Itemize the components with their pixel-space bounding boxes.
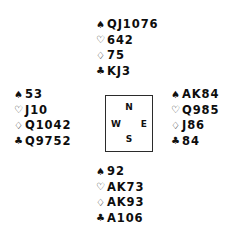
hand-east-diamonds-row: ♢ J86 [171,118,219,134]
hand-south-clubs: A106 [107,213,144,225]
heart-icon: ♡ [171,105,182,115]
hand-west-spades: 53 [25,89,43,101]
hand-south-hearts: AK73 [107,182,144,194]
hand-east-hearts: Q985 [182,105,219,117]
compass-label-east: E [141,119,147,128]
hand-south-diamonds: AK93 [107,197,144,209]
compass-label-west: W [111,119,121,128]
club-icon: ♣ [96,66,107,76]
hand-south-clubs-row: ♣ A106 [96,211,144,227]
hand-south: ♠ 92 ♡ AK73 ♢ AK93 ♣ A106 [96,164,144,226]
hand-north-spades-row: ♠ QJ1076 [96,17,158,33]
diamond-icon: ♢ [171,121,182,131]
compass-label-south: S [106,135,152,144]
compass-label-north: N [106,103,152,112]
hand-north-spades: QJ1076 [107,19,158,31]
hand-west: ♠ 53 ♡ J10 ♢ Q1042 ♣ Q9752 [14,87,71,149]
spade-icon: ♠ [96,20,107,30]
hand-north-clubs-row: ♣ KJ3 [96,64,158,80]
hand-north: ♠ QJ1076 ♡ 642 ♢ 75 ♣ KJ3 [96,17,158,79]
hand-east-hearts-row: ♡ Q985 [171,103,219,119]
hand-south-spades: 92 [107,166,125,178]
hand-south-spades-row: ♠ 92 [96,164,144,180]
compass-box: N W E S [105,95,153,152]
heart-icon: ♡ [96,35,107,45]
spade-icon: ♠ [14,90,25,100]
club-icon: ♣ [96,213,107,223]
hand-east-spades-row: ♠ AK84 [171,87,219,103]
diamond-icon: ♢ [14,121,25,131]
hand-east-diamonds: J86 [182,120,205,132]
spade-icon: ♠ [171,90,182,100]
hand-east: ♠ AK84 ♡ Q985 ♢ J86 ♣ 84 [171,87,219,149]
diamond-icon: ♢ [96,51,107,61]
club-icon: ♣ [14,136,25,146]
hand-west-clubs-row: ♣ Q9752 [14,134,71,150]
hand-north-diamonds-row: ♢ 75 [96,48,158,64]
hand-south-diamonds-row: ♢ AK93 [96,195,144,211]
hand-east-spades: AK84 [182,89,219,101]
hand-north-hearts: 642 [107,35,134,47]
hand-north-hearts-row: ♡ 642 [96,33,158,49]
heart-icon: ♡ [14,105,25,115]
hand-east-clubs: 84 [182,136,200,148]
hand-west-diamonds: Q1042 [25,120,71,132]
club-icon: ♣ [171,136,182,146]
hand-west-spades-row: ♠ 53 [14,87,71,103]
hand-east-clubs-row: ♣ 84 [171,134,219,150]
hand-west-hearts-row: ♡ J10 [14,103,71,119]
bridge-deal-diagram: ♠ QJ1076 ♡ 642 ♢ 75 ♣ KJ3 ♠ 53 ♡ J10 ♢ Q… [0,0,240,249]
diamond-icon: ♢ [96,198,107,208]
spade-icon: ♠ [96,167,107,177]
hand-west-diamonds-row: ♢ Q1042 [14,118,71,134]
hand-west-clubs: Q9752 [25,136,71,148]
hand-north-clubs: KJ3 [107,66,131,78]
hand-west-hearts: J10 [25,105,48,117]
hand-south-hearts-row: ♡ AK73 [96,180,144,196]
heart-icon: ♡ [96,182,107,192]
hand-north-diamonds: 75 [107,50,125,62]
